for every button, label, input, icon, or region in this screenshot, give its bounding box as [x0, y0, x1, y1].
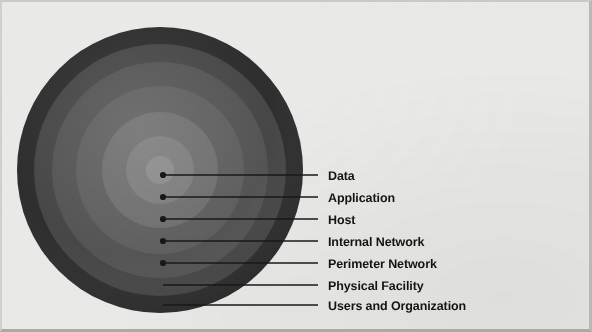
- labels-layer: DataApplicationHostInternal NetworkPerim…: [0, 0, 592, 332]
- layer-label-users-and-organization: Users and Organization: [328, 300, 466, 313]
- layer-label-perimeter-network: Perimeter Network: [328, 258, 437, 271]
- layer-label-application: Application: [328, 192, 395, 205]
- layer-label-data: Data: [328, 170, 355, 183]
- layer-label-physical-facility: Physical Facility: [328, 280, 424, 293]
- figure-canvas: DataApplicationHostInternal NetworkPerim…: [0, 0, 592, 332]
- layer-label-internal-network: Internal Network: [328, 236, 424, 249]
- layer-label-host: Host: [328, 214, 355, 227]
